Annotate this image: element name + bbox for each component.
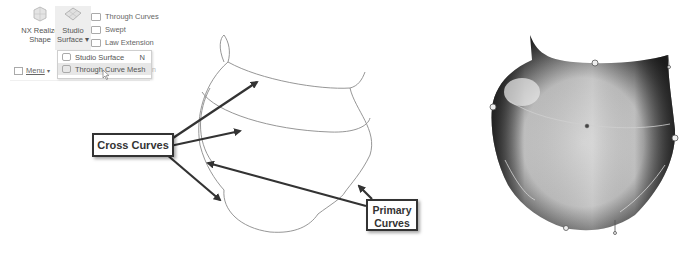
primary-curves-callout: Primary Curves <box>366 199 418 231</box>
primary-curve-arrows <box>208 163 372 206</box>
primary-curves-label-2: Curves <box>368 217 416 230</box>
surface-diagram <box>0 0 699 255</box>
cross-curves-callout: Cross Curves <box>92 133 174 157</box>
cross-curves-label: Cross Curves <box>97 139 169 151</box>
primary-curves-label-1: Primary <box>368 204 416 217</box>
cross-curve-arrows <box>166 82 257 200</box>
shaded-surface-render <box>490 35 678 235</box>
